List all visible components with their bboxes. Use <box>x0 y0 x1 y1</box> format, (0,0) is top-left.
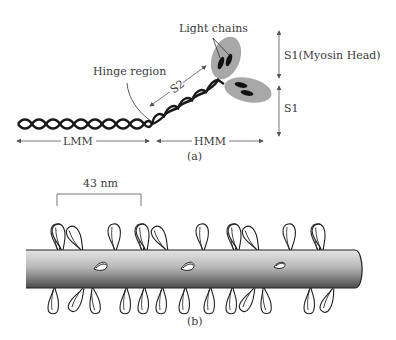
s1-myosin-head-label: S1(Myosin Head) <box>284 49 381 62</box>
part-a-myosin-molecule: Light chains Hinge region S2 S1(Myosin H… <box>17 22 381 163</box>
myosin-head-lower <box>222 73 274 106</box>
heads-top <box>51 223 327 254</box>
myosin-figure: Light chains Hinge region S2 S1(Myosin H… <box>0 0 396 340</box>
part-b-caption: (b) <box>187 315 203 328</box>
scale-bracket <box>57 194 141 206</box>
scale-label: 43 nm <box>83 177 119 190</box>
hinge-pointer <box>127 83 151 121</box>
hmm-label: HMM <box>194 135 226 148</box>
s2-label: S2 <box>168 77 187 96</box>
heads-bottom <box>48 285 337 314</box>
s1-label: S1 <box>284 102 299 115</box>
myosin-head-upper <box>205 33 246 84</box>
part-b-thick-filament: 43 nm <box>26 177 362 328</box>
light-chains-label: Light chains <box>179 22 248 35</box>
lmm-label: LMM <box>63 135 93 148</box>
hinge-region-label: Hinge region <box>93 65 166 78</box>
filament-rod <box>26 250 362 288</box>
myosin-tail-helix <box>18 74 224 129</box>
part-a-caption: (a) <box>187 150 202 163</box>
